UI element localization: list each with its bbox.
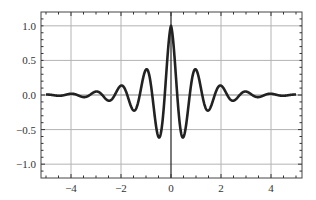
- x-axis-labels: −4−2024: [65, 182, 274, 194]
- x-tick-label: −2: [115, 182, 127, 194]
- y-tick-label: 0.5: [22, 54, 36, 66]
- x-tick-label: 2: [218, 182, 224, 194]
- y-tick-label: −0.5: [16, 124, 36, 136]
- y-tick-label: 1.0: [22, 20, 36, 32]
- line-chart: −4−2024 1.00.50.0−0.5−1.0: [0, 0, 316, 200]
- x-tick-label: 4: [268, 182, 274, 194]
- x-tick-label: −4: [65, 182, 77, 194]
- y-tick-label: 0.0: [22, 89, 36, 101]
- y-axis-labels: 1.00.50.0−0.5−1.0: [16, 20, 36, 170]
- y-tick-label: −1.0: [16, 158, 36, 170]
- x-tick-label: 0: [168, 182, 174, 194]
